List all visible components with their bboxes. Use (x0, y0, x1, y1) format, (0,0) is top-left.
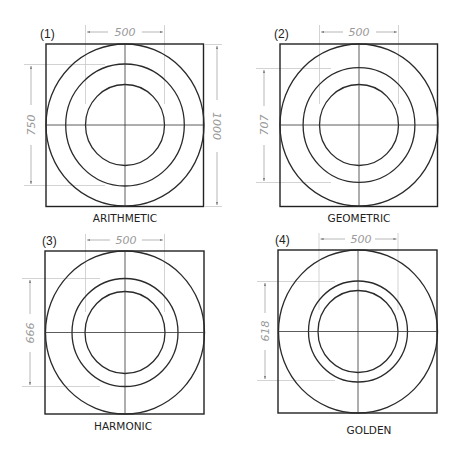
dimension-inner-diameter: 500 (321, 26, 397, 39)
panel-number: (1) (40, 27, 55, 41)
dimension-label: 500 (349, 26, 370, 39)
panel-geometric: (2) 500 707 GEOMETRIC (256, 25, 438, 224)
dimension-label: 707 (258, 115, 271, 136)
dimension-middle-diameter: 666 (24, 280, 37, 385)
dimension-middle-diameter: 618 (259, 283, 272, 379)
dimension-inner-diameter: 500 (87, 234, 163, 247)
panel-caption: GOLDEN (347, 424, 392, 436)
panel-caption: ARITHMETIC (93, 212, 157, 224)
dimension-label: 1000 (210, 112, 223, 140)
dimension-label: 500 (116, 234, 137, 247)
panel-caption: HARMONIC (94, 420, 152, 432)
dimension-middle-diameter: 707 (258, 70, 271, 181)
dimension-label: 500 (115, 26, 136, 39)
dimension-label: 500 (351, 233, 372, 246)
panel-caption: GEOMETRIC (328, 212, 391, 224)
panel-arithmetic: (1) 500 750 1000 (24, 25, 223, 224)
panel-number: (3) (42, 234, 57, 248)
dimension-middle-diameter: 750 (25, 66, 38, 184)
panel-number: (2) (274, 27, 289, 41)
dimension-outer-diameter: 1000 (210, 46, 223, 205)
dimension-label: 666 (24, 323, 37, 344)
panel-number: (4) (275, 233, 290, 247)
dimension-label: 618 (259, 321, 272, 342)
panel-golden: (4) 500 618 GOLDEN (257, 233, 438, 436)
diagram-canvas: (1) 500 750 1000 (0, 0, 458, 453)
dimension-inner-diameter: 500 (321, 233, 397, 246)
dimension-label: 750 (25, 115, 38, 136)
dimension-inner-diameter: 500 (87, 26, 163, 39)
panel-harmonic: (3) 500 666 HARMONIC (22, 234, 205, 432)
